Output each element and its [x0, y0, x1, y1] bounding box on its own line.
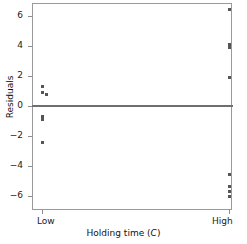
- data-point: [228, 43, 231, 46]
- y-tick-label: −4: [1, 161, 23, 170]
- data-point: [41, 91, 44, 94]
- data-point: [228, 195, 231, 198]
- data-point: [228, 46, 231, 49]
- y-tick-mark: [28, 76, 32, 77]
- data-point: [228, 76, 231, 79]
- y-tick-label: 6: [1, 11, 23, 20]
- y-axis-title: Residuals: [5, 59, 15, 135]
- residuals-scatter-chart: 6420−2−4−6 LowHigh Residuals Holding tim…: [0, 0, 247, 244]
- y-tick-mark: [28, 166, 32, 167]
- y-tick-label: 4: [1, 41, 23, 50]
- data-point: [41, 115, 44, 118]
- x-tick-label: Low: [37, 216, 55, 226]
- data-point: [41, 141, 44, 144]
- data-point: [228, 190, 231, 193]
- y-tick-mark: [28, 16, 32, 17]
- y-tick-mark: [28, 46, 32, 47]
- y-tick-mark: [28, 136, 32, 137]
- y-tick-label: −6: [1, 191, 23, 200]
- data-point: [228, 185, 231, 188]
- x-tick-mark: [42, 210, 43, 214]
- x-axis-title: Holding time (C): [0, 228, 247, 238]
- y-tick-mark: [28, 196, 32, 197]
- data-point: [45, 93, 48, 96]
- x-tick-label: High: [212, 216, 233, 226]
- y-tick-mark: [28, 106, 32, 107]
- x-axis-title-text: Holding time: [87, 228, 145, 238]
- data-point: [41, 85, 44, 88]
- data-point: [228, 8, 231, 11]
- zero-reference-line: [32, 105, 233, 107]
- x-axis-title-symbol: C: [151, 228, 157, 238]
- data-point: [41, 118, 44, 121]
- data-point: [228, 173, 231, 176]
- x-tick-mark: [229, 210, 230, 214]
